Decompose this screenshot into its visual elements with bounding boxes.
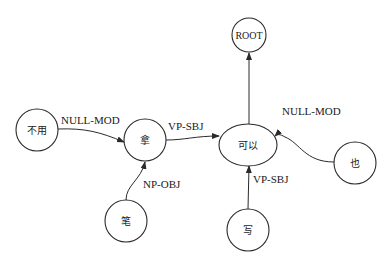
edge-arrow	[58, 129, 124, 142]
edge-xie-keyi: VP-SBJ	[248, 166, 289, 209]
edge-arrow	[275, 135, 334, 162]
node-label: ROOT	[235, 30, 262, 41]
node-label: 可以	[238, 140, 258, 151]
node-keyi: 可以	[219, 124, 277, 166]
edge-buyong-na: NULL-MOD	[58, 114, 124, 142]
node-buyong: 不用	[16, 109, 58, 151]
dependency-diagram: NULL-MOD VP-SBJ NULL-MOD NP-OBJ VP-SBJ R…	[0, 0, 388, 266]
edge-arrow	[166, 136, 219, 140]
edge-ye-keyi: NULL-MOD	[275, 105, 341, 162]
edge-label-null-mod: NULL-MOD	[282, 105, 341, 117]
node-xie: 写	[227, 209, 269, 251]
node-na: 拿	[124, 119, 166, 161]
node-label: 写	[243, 225, 253, 236]
edge-label-vp-sbj: VP-SBJ	[253, 173, 289, 185]
edge-na-keyi: VP-SBJ	[166, 120, 219, 140]
edge-label-vp-sbj: VP-SBJ	[168, 120, 204, 132]
node-label: 笔	[121, 215, 131, 227]
edge-label-null-mod: NULL-MOD	[61, 114, 120, 126]
node-root: ROOT	[232, 18, 266, 52]
node-ye: 也	[334, 142, 376, 184]
node-label: 不用	[27, 125, 47, 136]
node-label: 拿	[140, 134, 150, 146]
node-bi: 笔	[105, 200, 147, 242]
edge-bi-na: NP-OBJ	[126, 162, 181, 200]
edge-arrow	[248, 166, 249, 209]
node-label: 也	[350, 157, 360, 169]
edge-label-np-obj: NP-OBJ	[143, 178, 181, 190]
